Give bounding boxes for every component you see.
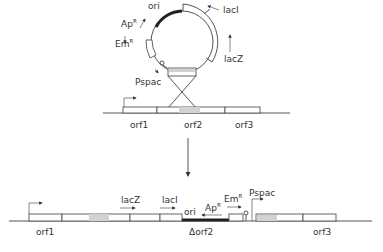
dorf2-homology-region [257,215,277,221]
label-ori-after: ori [184,207,196,217]
chromosome-before [103,98,290,113]
label-emr-after: EmR [224,193,242,204]
orf2-homology-region [179,107,200,113]
gene-orf1 [123,107,157,113]
label-orf1: orf1 [130,120,148,130]
label-orf2: orf2 [184,120,202,130]
label-lacz: lacZ [224,54,243,64]
label-orf1-after: orf1 [36,227,54,237]
laci-lacz-outer-arc [183,4,218,62]
label-orf3: orf3 [235,120,253,130]
terminator-icon [160,61,164,65]
orf1-promoter-after-arrow-icon [29,203,42,214]
gene-orf3-after [303,214,336,221]
label-pspac: Pspac [135,77,161,87]
label-apr: ApR [121,18,137,29]
label-laci-after: lacI [162,195,178,205]
emr-box [146,40,156,58]
homology-region-after [89,214,109,221]
pspac-arrow-icon [155,69,158,73]
label-pspac-after: Pspac [249,188,275,198]
gene-laci-after [160,214,182,221]
gene-lacz-after [130,214,160,221]
ori-apr-segment [156,11,182,27]
gene-orf3 [225,107,260,113]
label-emr: EmR [115,38,133,49]
label-dorf2-after: Δorf2 [189,227,213,237]
gene-emr-after [229,214,243,221]
apr-arrow-icon [140,19,145,28]
orf1-promoter-arrow-icon [124,98,136,107]
gene-orf1-after [29,214,62,221]
label-lacz-after: lacZ [121,195,140,205]
terminator-after-icon [244,211,248,215]
label-ori: ori [148,1,160,11]
plasmid [146,4,218,108]
label-apr-after: ApR [205,202,221,213]
label-laci: lacI [223,5,239,15]
laci-lacz-boundary [204,9,210,14]
label-orf3-after: orf3 [313,227,331,237]
integration-diagram: ori ApR EmR lacI lacZ Pspac orf1 orf2 or… [0,0,383,252]
